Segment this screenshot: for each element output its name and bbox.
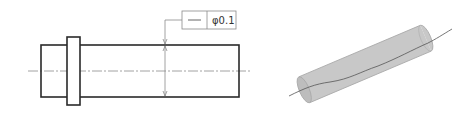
tolerance-cylinder-body xyxy=(299,25,431,102)
tolerance-value: φ0.1 xyxy=(212,15,235,26)
leader-line xyxy=(163,20,182,44)
feature-control-frame: φ0.1 xyxy=(182,11,236,29)
technical-drawing: φ0.1 xyxy=(0,0,462,114)
shaft-orthographic-view: φ0.1 xyxy=(28,11,250,105)
shaft-collar xyxy=(67,37,80,105)
tolerance-zone-3d-view xyxy=(289,23,452,104)
